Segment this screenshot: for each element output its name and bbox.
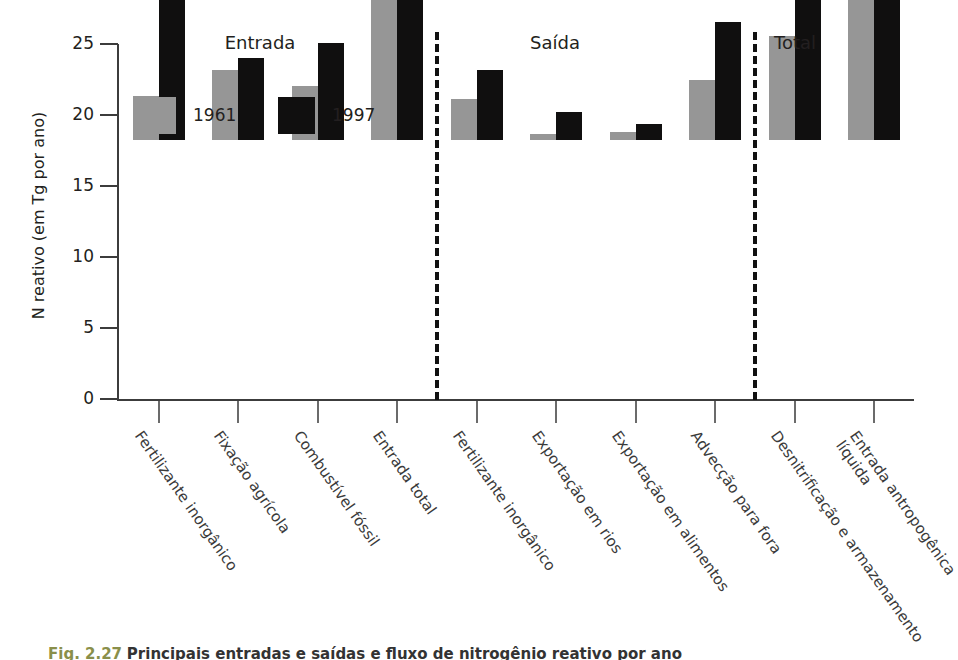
legend-swatch-icon-1961 — [139, 97, 176, 134]
section-divider-2 — [753, 32, 757, 400]
x-tick-8 — [794, 401, 796, 423]
x-tick-1 — [237, 401, 239, 423]
category-label-3: Entrada total — [369, 428, 439, 518]
legend-label-1961: 1961 — [193, 105, 236, 125]
category-label-1: Fixação agrícola — [210, 428, 293, 537]
bar-1961-5 — [530, 134, 556, 140]
bar-1961-4 — [451, 99, 477, 140]
bar-1997-8 — [795, 0, 821, 140]
legend-entry-1961: 1961 — [139, 96, 236, 134]
x-tick-3 — [396, 401, 398, 423]
bar-1961-6 — [610, 132, 636, 140]
x-tick-0 — [158, 401, 160, 423]
x-tick-5 — [555, 401, 557, 423]
bar-1961-9 — [848, 0, 874, 140]
bar-1997-6 — [636, 124, 662, 140]
section-title-saida: Saída — [460, 32, 650, 53]
bar-1997-3 — [397, 0, 423, 140]
section-divider-1 — [435, 32, 439, 400]
category-label-5: Exportação em rios — [528, 428, 625, 557]
category-label-2: Combustível fóssil — [290, 428, 382, 550]
bar-1997-1 — [238, 58, 264, 140]
section-title-entrada: Entrada — [165, 32, 355, 53]
section-title-total: Total — [700, 32, 890, 53]
figure-caption: Fig. 2.27 Principais entradas e saídas e… — [48, 645, 908, 660]
x-tick-7 — [714, 401, 716, 423]
x-tick-6 — [635, 401, 637, 423]
caption-text: Principais entradas e saídas e fluxo de … — [127, 645, 682, 660]
plot-area — [0, 0, 928, 401]
bar-1997-5 — [556, 112, 582, 140]
caption-figure-number: Fig. 2.27 — [48, 645, 122, 660]
x-tick-4 — [476, 401, 478, 423]
x-tick-9 — [873, 401, 875, 423]
category-label-7: Advecção para fora — [687, 428, 785, 557]
legend-entry-1997: 1997 — [278, 96, 375, 134]
bar-1997-9 — [874, 0, 900, 140]
bar-1961-7 — [689, 80, 715, 140]
bar-1997-4 — [477, 70, 503, 140]
legend-label-1997: 1997 — [332, 105, 375, 125]
x-tick-2 — [317, 401, 319, 423]
legend-swatch-icon-1997 — [278, 97, 315, 134]
